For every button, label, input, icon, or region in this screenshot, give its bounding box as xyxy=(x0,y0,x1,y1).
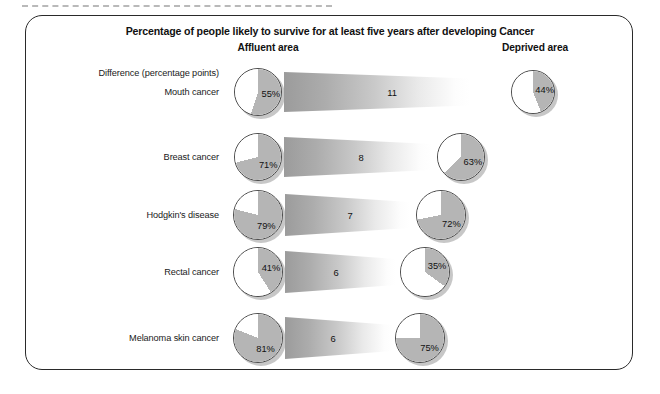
difference-value: 7 xyxy=(347,210,352,221)
row-label-melanoma-skin-cancer: Melanoma skin cancer xyxy=(0,333,219,343)
pie-deprived xyxy=(400,247,450,297)
pie-label-affluent: 41% xyxy=(262,263,281,273)
difference-value: 8 xyxy=(358,152,363,163)
pie-label-affluent: 81% xyxy=(256,344,275,354)
pie-deprived xyxy=(416,190,466,240)
pie-slice xyxy=(234,191,282,239)
column-header-affluent: Affluent area xyxy=(222,42,314,53)
pie-face xyxy=(233,190,283,240)
pie-face xyxy=(233,313,283,363)
pie-label-deprived: 72% xyxy=(442,219,461,229)
pie-face xyxy=(400,247,450,297)
row-label-mouth-cancer: Mouth cancer xyxy=(0,87,219,97)
pie-label-affluent: 71% xyxy=(259,160,278,170)
pie-face xyxy=(234,133,282,181)
pie-slice xyxy=(396,314,444,362)
row-label-rectal-cancer: Rectal cancer xyxy=(0,267,219,277)
pie-slice xyxy=(417,191,465,239)
row-label-breast-cancer: Breast cancer xyxy=(0,152,219,162)
pie-deprived xyxy=(395,313,445,363)
pie-face xyxy=(395,313,445,363)
pie-label-deprived: 63% xyxy=(464,157,483,167)
pie-face xyxy=(416,190,466,240)
pie-slice xyxy=(234,314,282,362)
pie-label-deprived: 44% xyxy=(535,85,554,95)
pie-affluent xyxy=(234,133,282,181)
difference-value: 6 xyxy=(330,333,335,344)
difference-band xyxy=(284,72,470,112)
top-dashed-rule xyxy=(22,5,332,7)
column-header-deprived: Deprived area xyxy=(489,42,581,53)
difference-caption: Difference (percentage points) xyxy=(0,68,219,78)
pie-affluent xyxy=(233,190,283,240)
page-title: Percentage of people likely to survive f… xyxy=(0,25,660,37)
difference-value: 11 xyxy=(387,87,397,98)
pie-slice xyxy=(401,248,449,296)
pie-label-deprived: 35% xyxy=(428,261,447,271)
difference-value: 6 xyxy=(333,267,338,278)
pie-affluent xyxy=(233,313,283,363)
pie-label-deprived: 75% xyxy=(420,343,439,353)
pie-label-affluent: 55% xyxy=(261,89,280,99)
pie-label-affluent: 79% xyxy=(257,221,276,231)
row-label-hodgkin-s-disease: Hodgkin's disease xyxy=(0,210,219,220)
pie-slice xyxy=(235,134,281,180)
